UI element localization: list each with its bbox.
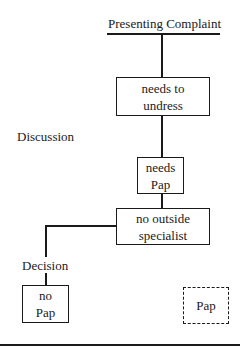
connector-line xyxy=(161,116,163,157)
connector-line xyxy=(45,273,47,285)
node-label: needs Pap xyxy=(146,159,176,193)
bottom-rule xyxy=(0,344,240,346)
stage-label-decision: Decision xyxy=(22,258,68,273)
node-label: needs to undress xyxy=(142,80,185,114)
connector-line xyxy=(45,225,47,257)
node-needs-pap: needs Pap xyxy=(137,157,184,194)
connector-line xyxy=(161,33,163,77)
connector-line xyxy=(45,225,116,227)
node-needs-to-undress: needs to undress xyxy=(116,77,210,116)
presenting-complaint-heading: Presenting Complaint xyxy=(108,16,221,31)
node-no-pap: no Pap xyxy=(22,285,69,323)
heading-underline xyxy=(107,33,220,35)
node-label: Pap xyxy=(196,297,216,314)
node-label: no outside specialist xyxy=(136,210,190,244)
node-label: no Pap xyxy=(36,287,56,321)
node-pap-dashed: Pap xyxy=(183,287,229,324)
connector-line xyxy=(161,194,163,208)
node-no-outside-specialist: no outside specialist xyxy=(116,208,210,245)
stage-label-discussion: Discussion xyxy=(17,129,74,144)
